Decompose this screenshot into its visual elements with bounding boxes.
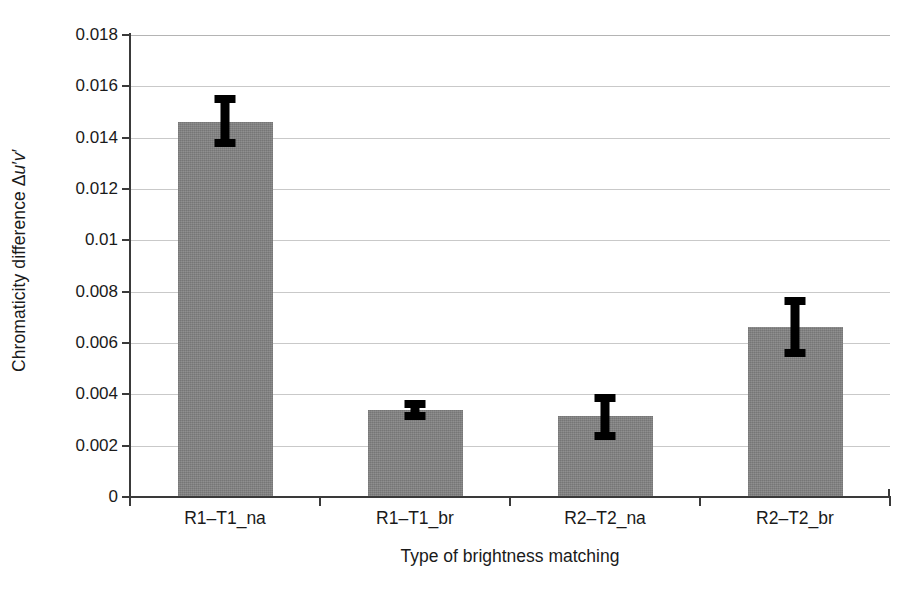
y-axis-tick bbox=[122, 393, 131, 395]
chart-figure: Chromaticity difference Δu′v′ 00.0020.00… bbox=[0, 0, 917, 595]
x-axis-tick bbox=[509, 496, 511, 506]
x-axis-category-label: R2–T2_na bbox=[505, 508, 705, 529]
error-bar-cap-bottom bbox=[785, 349, 806, 357]
error-bar bbox=[593, 394, 617, 440]
plot-area bbox=[130, 35, 890, 497]
gridline bbox=[130, 35, 890, 36]
error-bar-cap-bottom bbox=[595, 432, 616, 440]
y-axis-tick-labels: 00.0020.0040.0060.0080.010.0120.0140.016… bbox=[0, 0, 118, 595]
x-axis-tick bbox=[889, 496, 891, 506]
bar bbox=[178, 122, 273, 497]
error-bar bbox=[783, 297, 807, 357]
y-axis-tick bbox=[122, 188, 131, 190]
x-axis-title: Type of brightness matching bbox=[130, 546, 890, 567]
y-axis-tick-label: 0 bbox=[8, 487, 118, 507]
y-axis-tick-label: 0.002 bbox=[8, 436, 118, 456]
y-axis-tick bbox=[122, 291, 131, 293]
x-axis-category-label: R1–T1_br bbox=[315, 508, 515, 529]
y-axis-tick-label: 0.004 bbox=[8, 384, 118, 404]
y-axis-tick bbox=[122, 239, 131, 241]
error-bar-cap-bottom bbox=[215, 139, 236, 147]
error-bar-cap-bottom bbox=[405, 412, 426, 420]
error-bar-cap-top bbox=[215, 95, 236, 103]
y-axis-tick bbox=[122, 85, 131, 87]
error-bar bbox=[403, 400, 427, 420]
gridline bbox=[130, 86, 890, 87]
y-axis-tick bbox=[122, 342, 131, 344]
y-axis-tick-label: 0.01 bbox=[8, 230, 118, 250]
x-axis-tick bbox=[319, 496, 321, 506]
y-axis-tick-label: 0.014 bbox=[8, 128, 118, 148]
error-bar-cap-top bbox=[405, 400, 426, 408]
bar bbox=[368, 410, 463, 497]
y-axis-tick-label: 0.012 bbox=[8, 179, 118, 199]
x-axis-tick bbox=[699, 496, 701, 506]
y-axis-tick bbox=[122, 445, 131, 447]
x-axis-tick bbox=[129, 496, 131, 506]
x-axis-category-label: R2–T2_br bbox=[695, 508, 895, 529]
error-bar-stem bbox=[791, 297, 800, 357]
x-axis-category-label: R1–T1_na bbox=[125, 508, 325, 529]
y-axis-tick-label: 0.006 bbox=[8, 333, 118, 353]
y-axis-tick bbox=[122, 34, 131, 36]
error-bar-cap-top bbox=[595, 394, 616, 402]
y-axis-tick-label: 0.018 bbox=[8, 25, 118, 45]
error-bar bbox=[213, 95, 237, 147]
y-axis-tick-label: 0.008 bbox=[8, 282, 118, 302]
y-axis-tick-label: 0.016 bbox=[8, 76, 118, 96]
error-bar-cap-top bbox=[785, 297, 806, 305]
y-axis-tick bbox=[122, 137, 131, 139]
y-axis-line bbox=[129, 33, 131, 499]
